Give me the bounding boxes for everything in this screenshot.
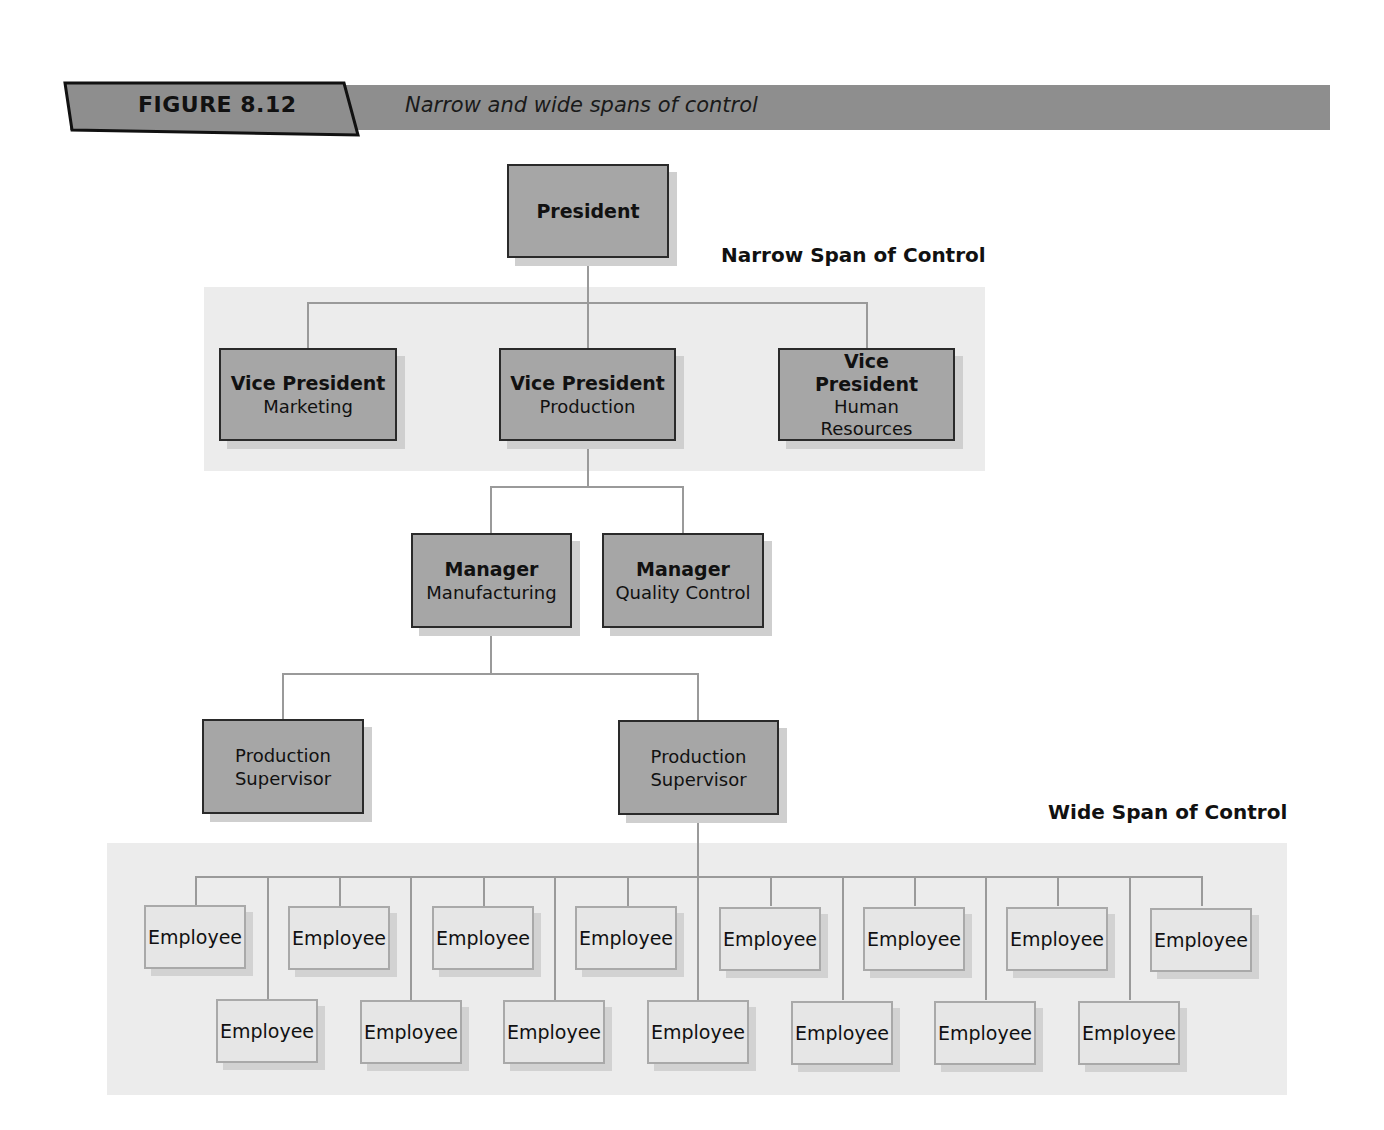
node-subtitle: Human Resources [802, 396, 931, 440]
connector [195, 876, 197, 906]
connector [490, 486, 684, 488]
node-employee: Employee [432, 906, 534, 970]
node-employee: Employee [216, 999, 318, 1063]
connector [682, 486, 684, 533]
node-label: Employee [436, 927, 530, 950]
node-employee: Employee [575, 906, 677, 970]
connector [914, 876, 916, 906]
node-employee: Employee [1078, 1001, 1180, 1065]
node-title: Manager [636, 558, 730, 581]
wide-span-label: Wide Span of Control [1048, 800, 1287, 824]
connector [195, 876, 1202, 878]
node-label: Employee [292, 927, 386, 950]
node-title: President [536, 200, 639, 223]
node-employee: Employee [1150, 908, 1252, 972]
connector [1129, 876, 1131, 1000]
figure-number: FIGURE 8.12 [138, 92, 297, 117]
node-label: Employee [1010, 928, 1104, 951]
node-title: Vice President [802, 350, 931, 396]
node-label: Employee [651, 1021, 745, 1044]
node-subtitle: Quality Control [615, 581, 750, 604]
connector [627, 876, 629, 906]
connector [282, 673, 699, 675]
node-vp-human-resources: Vice President Human Resources [778, 348, 955, 441]
node-subtitle: Marketing [263, 395, 353, 418]
node-president: President [507, 164, 669, 258]
node-title: Vice President [510, 372, 665, 395]
node-label: Employee [364, 1021, 458, 1044]
node-subtitle: Production Supervisor [648, 745, 749, 791]
connector [697, 673, 699, 720]
node-label: Employee [1082, 1022, 1176, 1045]
node-production-supervisor-1: Production Supervisor [202, 719, 364, 814]
node-label: Employee [148, 926, 242, 949]
node-production-supervisor-2: Production Supervisor [618, 720, 779, 815]
connector [307, 302, 309, 348]
connector [490, 486, 492, 533]
connector [554, 876, 556, 1000]
node-vp-production: Vice President Production [499, 348, 676, 441]
node-employee: Employee [503, 1000, 605, 1064]
node-employee: Employee [934, 1001, 1036, 1065]
node-subtitle: Production Supervisor [232, 744, 334, 790]
figure-title: Narrow and wide spans of control [405, 93, 758, 117]
node-subtitle: Production [540, 395, 636, 418]
node-employee: Employee [647, 1000, 749, 1064]
node-employee: Employee [791, 1001, 893, 1065]
node-label: Employee [579, 927, 673, 950]
connector [490, 627, 492, 674]
connector [339, 876, 341, 906]
node-label: Employee [938, 1022, 1032, 1045]
connector [866, 302, 868, 348]
connector [1201, 876, 1203, 906]
narrow-span-label: Narrow Span of Control [721, 243, 986, 267]
node-manager-manufacturing: Manager Manufacturing [411, 533, 572, 628]
connector [307, 302, 867, 304]
connector [842, 876, 844, 1000]
node-employee: Employee [719, 907, 821, 971]
connector [985, 876, 987, 1000]
node-label: Employee [1154, 929, 1248, 952]
node-employee: Employee [144, 905, 246, 969]
connector [282, 673, 284, 720]
connector [267, 876, 269, 1000]
node-manager-quality-control: Manager Quality Control [602, 533, 764, 628]
node-employee: Employee [360, 1000, 462, 1064]
node-title: Vice President [231, 372, 386, 395]
node-label: Employee [220, 1020, 314, 1043]
node-label: Employee [795, 1022, 889, 1045]
node-employee: Employee [863, 907, 965, 971]
node-employee: Employee [288, 906, 390, 970]
node-label: Employee [867, 928, 961, 951]
connector [697, 813, 699, 1001]
node-label: Employee [507, 1021, 601, 1044]
connector [770, 876, 772, 906]
connector [483, 876, 485, 906]
node-employee: Employee [1006, 907, 1108, 971]
node-subtitle: Manufacturing [426, 581, 556, 604]
connector [587, 440, 589, 487]
connector [1057, 876, 1059, 906]
node-title: Manager [445, 558, 539, 581]
connector [410, 876, 412, 1000]
node-label: Employee [723, 928, 817, 951]
node-vp-marketing: Vice President Marketing [219, 348, 397, 441]
